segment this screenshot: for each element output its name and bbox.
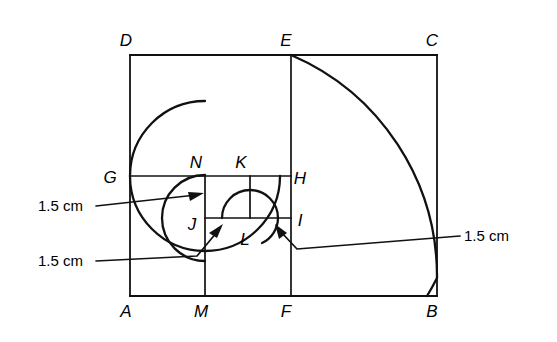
vertex-label-K: K [235,153,247,172]
vertex-label-J: J [187,215,197,234]
leader-line-left-upper [96,195,196,206]
arc-E-to-B [291,55,437,278]
arc-E-to-B-tail [427,278,437,296]
vertex-label-H: H [294,169,307,188]
arrowhead-left-upper [188,192,204,201]
vertex-label-D: D [120,31,132,50]
vertex-label-E: E [280,31,292,50]
dimension-label-right: 1.5 cm [464,227,509,244]
vertex-label-A: A [119,302,131,321]
internal-division-lines [130,55,291,296]
vertex-label-F: F [281,302,293,321]
dimension-label-left-upper: 1.5 cm [38,197,83,214]
dimension-label-left-lower: 1.5 cm [38,252,83,269]
leader-line-left-lower [96,232,217,261]
geometry-diagram-canvas: D E C G N K H J I L A M F B 1.5 cm 1.5 c… [0,0,557,342]
leader-left-upper [96,192,204,206]
vertex-label-G: G [103,168,116,187]
vertex-label-B: B [426,302,437,321]
leader-left-lower [96,224,223,261]
vertex-label-C: C [426,31,439,50]
vertex-label-N: N [190,153,203,172]
vertex-label-M: M [194,302,209,321]
vertex-label-L: L [240,230,249,249]
vertex-label-I: I [298,211,303,230]
figure-svg: D E C G N K H J I L A M F B 1.5 cm 1.5 c… [0,0,557,342]
arrowhead-left-lower [209,224,223,238]
